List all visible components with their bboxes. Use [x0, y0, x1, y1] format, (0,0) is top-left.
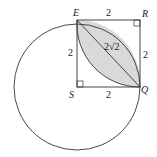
point-label-e: E — [72, 7, 79, 18]
side-label-right: 2 — [143, 49, 148, 60]
point-label-s: S — [69, 89, 74, 100]
side-label-left: 2 — [68, 47, 73, 58]
right-angle-marker-r — [134, 20, 140, 26]
right-angle-marker-s — [77, 81, 83, 87]
point-label-r: R — [141, 8, 148, 19]
side-label-bottom: 2 — [106, 89, 111, 100]
point-label-q: Q — [141, 84, 149, 95]
geometry-diagram: E R S Q 2 2 2 2 2√2 — [0, 0, 157, 157]
diagonal-label: 2√2 — [104, 41, 120, 52]
side-label-top: 2 — [106, 7, 111, 18]
